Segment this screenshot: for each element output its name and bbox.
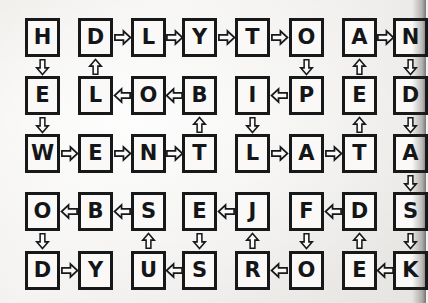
letter-cell-r3-c8[interactable]: A <box>393 134 428 173</box>
letter-cell-r2-c5[interactable]: I <box>235 76 270 115</box>
arrow-right-r3-c3 <box>165 144 184 163</box>
arrow-down-c4-r4 <box>191 232 208 250</box>
arrow-up-c5-r4 <box>244 232 261 250</box>
arrow-right-r1-c3 <box>165 28 184 47</box>
arrow-down-c6-r1 <box>298 58 315 76</box>
arrow-up-c2-r1 <box>87 58 104 76</box>
letter-cell-r4-c3[interactable]: S <box>131 192 166 231</box>
letter-cell-r3-c6[interactable]: A <box>289 134 324 173</box>
letter-cell-r4-c2[interactable]: B <box>78 192 113 231</box>
letter-cell-r4-c6[interactable]: F <box>289 192 324 231</box>
arrow-right-r1-c7 <box>376 28 395 47</box>
letter-cell-r1-c5[interactable]: T <box>235 18 270 57</box>
letter-cell-r2-c4[interactable]: B <box>182 76 217 115</box>
letter-cell-r3-c3[interactable]: N <box>131 134 166 173</box>
arrow-right-r3-c2 <box>113 144 132 163</box>
letter-cell-r5-c8[interactable]: K <box>393 251 428 290</box>
letter-cell-r3-c2[interactable]: E <box>78 134 113 173</box>
letter-cell-r1-c6[interactable]: O <box>289 18 324 57</box>
arrow-left-r2-c3 <box>165 86 184 105</box>
arrow-down-c8-r2 <box>402 116 419 134</box>
arrow-down-c1-r2 <box>34 116 51 134</box>
letter-cell-r1-c3[interactable]: L <box>131 18 166 57</box>
arrow-up-c3-r4 <box>140 232 157 250</box>
letter-cell-r1-c2[interactable]: D <box>78 18 113 57</box>
letter-cell-r1-c7[interactable]: A <box>342 18 377 57</box>
letter-cell-r3-c7[interactable]: T <box>342 134 377 173</box>
arrow-left-r5-c7 <box>376 261 395 280</box>
letter-cell-r5-c1[interactable]: D <box>25 251 60 290</box>
arrow-right-r1-c4 <box>217 28 236 47</box>
letter-cell-r4-c8[interactable]: S <box>393 192 428 231</box>
arrow-right-r3-c5 <box>270 144 289 163</box>
letter-cell-r2-c6[interactable]: P <box>289 76 324 115</box>
arrow-right-r1-c5 <box>270 28 289 47</box>
arrow-right-r3-c6 <box>324 144 343 163</box>
letter-cell-r2-c1[interactable]: E <box>25 76 60 115</box>
arrow-up-c4-r2 <box>191 116 208 134</box>
arrow-left-r5-c3 <box>165 261 184 280</box>
arrow-down-c5-r2 <box>244 116 261 134</box>
letter-cell-r3-c4[interactable]: T <box>182 134 217 173</box>
arrow-down-c8-r4 <box>402 232 419 250</box>
letter-cell-r2-c8[interactable]: D <box>393 76 428 115</box>
letter-cell-r2-c2[interactable]: L <box>78 76 113 115</box>
arrow-right-r1-c2 <box>113 28 132 47</box>
letter-cell-r2-c3[interactable]: O <box>131 76 166 115</box>
arrow-down-c6-r4 <box>298 232 315 250</box>
letter-cell-r4-c4[interactable]: E <box>182 192 217 231</box>
arrow-left-r2-c2 <box>113 86 132 105</box>
arrow-down-c8-r1 <box>402 58 419 76</box>
letter-cell-r5-c3[interactable]: U <box>131 251 166 290</box>
letter-cell-r4-c7[interactable]: D <box>342 192 377 231</box>
arrow-left-r4-c6 <box>324 202 343 221</box>
letter-cell-r1-c8[interactable]: N <box>393 18 428 57</box>
arrow-down-c1-r1 <box>34 58 51 76</box>
letter-cell-r4-c5[interactable]: J <box>235 192 270 231</box>
arrow-up-c7-r4 <box>351 232 368 250</box>
letter-cell-r1-c4[interactable]: Y <box>182 18 217 57</box>
letter-cell-r2-c7[interactable]: E <box>342 76 377 115</box>
letter-cell-r3-c5[interactable]: L <box>235 134 270 173</box>
letter-cell-r3-c1[interactable]: W <box>25 134 60 173</box>
letter-cell-r5-c6[interactable]: O <box>289 251 324 290</box>
arrow-left-r2-c5 <box>270 86 289 105</box>
letter-cell-r4-c1[interactable]: O <box>25 192 60 231</box>
arrow-left-r4-c4 <box>217 202 236 221</box>
letter-cell-r5-c7[interactable]: E <box>342 251 377 290</box>
arrow-down-c1-r4 <box>34 232 51 250</box>
arrow-right-r5-c1 <box>60 261 79 280</box>
letter-cell-r5-c2[interactable]: Y <box>78 251 113 290</box>
arrow-left-r4-c2 <box>113 202 132 221</box>
letter-cell-r5-c5[interactable]: R <box>235 251 270 290</box>
arrow-down-c8-r3 <box>402 174 419 192</box>
arrow-up-c7-r1 <box>351 58 368 76</box>
letter-cell-r1-c1[interactable]: H <box>25 18 60 57</box>
arrow-up-c7-r2 <box>351 116 368 134</box>
arrow-left-r5-c5 <box>270 261 289 280</box>
arrow-right-r3-c1 <box>60 144 79 163</box>
letter-cell-r5-c4[interactable]: S <box>182 251 217 290</box>
arrow-left-r4-c1 <box>60 202 79 221</box>
